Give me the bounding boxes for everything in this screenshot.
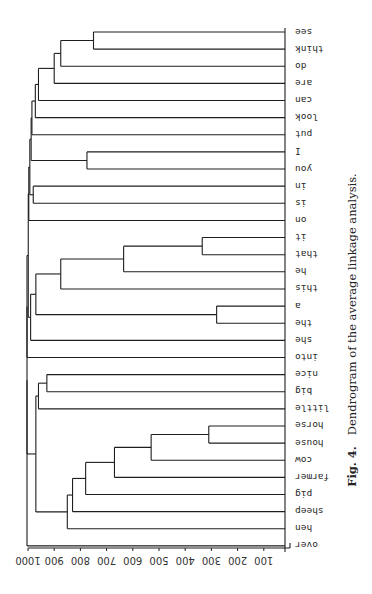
leaf-label: pig	[295, 489, 312, 500]
leaf-label: that	[295, 249, 318, 260]
leaf-label: little	[295, 403, 330, 414]
leaf-label: nice	[295, 369, 318, 380]
axis-tick-label: 700	[97, 555, 116, 566]
axis-tick-label: 500	[149, 555, 168, 566]
axis-tick-label: 900	[45, 555, 64, 566]
axis-tick-label: 400	[176, 555, 195, 566]
caption-title: Dendrogram of the average linkage analys…	[345, 173, 359, 435]
leaf-label: this	[295, 283, 318, 294]
leaf-label: I	[295, 146, 301, 157]
leaf-label: she	[295, 335, 312, 346]
figure-caption: Fig. 4. Dendrogram of the average linkag…	[340, 170, 364, 490]
axis-tick-label: 200	[228, 555, 247, 566]
leaf-label: sheep	[295, 506, 324, 517]
leaf-label: think	[295, 44, 324, 55]
caption-text: Fig. 4. Dendrogram of the average linkag…	[345, 173, 359, 487]
leaf-label: farmer	[295, 472, 330, 483]
leaf-label: hen	[295, 523, 312, 534]
leaf-label: on	[295, 215, 306, 226]
leaf-label: a	[295, 301, 301, 312]
axis-tick-label: 600	[123, 555, 142, 566]
leaf-label: into	[295, 352, 318, 363]
leaf-label: is	[295, 198, 306, 209]
leaf-label: in	[295, 181, 306, 192]
leaf-label: it	[295, 232, 306, 243]
leaf-label: big	[295, 386, 312, 397]
leaf-label: the	[295, 318, 312, 329]
dendrogram-links	[27, 28, 285, 552]
leaf-label: he	[295, 266, 307, 277]
leaf-label: can	[295, 95, 312, 106]
axis-tick-label: 1000	[15, 555, 40, 566]
dendrogram-figure: seethinkdoarecanlookputIyouinisonitthath…	[0, 0, 372, 594]
leaf-labels: seethinkdoarecanlookputIyouinisonitthath…	[295, 27, 330, 552]
leaf-label: look	[295, 112, 318, 123]
axis-tick-label: 300	[202, 555, 221, 566]
axis-tick-label: 800	[71, 555, 90, 566]
axis-tick-label: 100	[254, 555, 273, 566]
leaf-label: cow	[295, 455, 312, 466]
leaf-label: you	[295, 164, 312, 175]
leaf-label: see	[295, 27, 312, 38]
leaf-label: over	[295, 540, 318, 551]
leaf-label: horse	[295, 420, 324, 431]
leaf-label: are	[295, 78, 312, 89]
leaf-label: put	[295, 129, 312, 140]
dendrogram-chart: seethinkdoarecanlookputIyouinisonitthath…	[0, 0, 372, 594]
leaf-label: house	[295, 438, 324, 449]
leaf-label: do	[295, 61, 307, 72]
caption-label: Fig. 4.	[345, 446, 359, 487]
